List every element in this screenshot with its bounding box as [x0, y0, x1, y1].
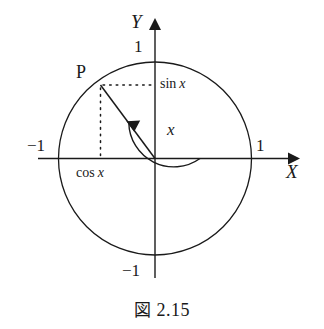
- sin-variable: x: [179, 76, 185, 91]
- point-p-label: P: [76, 63, 86, 81]
- caption-number: 2.15: [157, 300, 191, 320]
- sin-prefix: sin: [160, 76, 176, 91]
- caption-symbol: 図: [134, 300, 152, 320]
- cos-prefix: cos: [76, 165, 95, 180]
- y-axis-tick-positive-one: 1: [134, 38, 143, 55]
- cos-x-label: cosx: [76, 166, 104, 180]
- x-axis-tick-negative-one: −1: [27, 137, 45, 154]
- sin-x-label: sinx: [160, 77, 186, 91]
- x-axis-label: X: [286, 162, 298, 181]
- figure-caption: 図2.15: [0, 296, 324, 321]
- y-axis-label: Y: [131, 12, 142, 31]
- cos-variable: x: [98, 165, 104, 180]
- y-axis-arrowhead: [149, 18, 161, 30]
- angle-arc: [129, 123, 200, 167]
- x-axis-tick-positive-one: 1: [256, 137, 265, 154]
- angle-variable-label: x: [167, 121, 175, 138]
- figure-container: Y 1 −1 X 1 −1 P sinx cosx x 図2.15: [0, 0, 324, 329]
- unit-circle-diagram: [0, 0, 324, 300]
- y-axis-tick-negative-one: −1: [122, 262, 140, 279]
